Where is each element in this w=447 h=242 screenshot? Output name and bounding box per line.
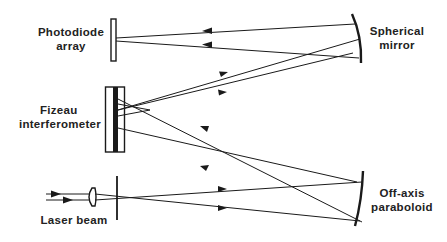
label-line: Spherical: [366, 24, 428, 38]
label-fizeau-interferometer: Fizeau interferometer: [18, 103, 102, 131]
fizeau-interferometer: [106, 87, 125, 152]
laser-lens: [89, 188, 96, 206]
spherical-mirror: [352, 14, 361, 63]
label-line: Laser beam: [39, 213, 109, 227]
label-line: array: [36, 39, 106, 53]
photodiode-array: [111, 19, 116, 61]
label-laser-beam: Laser beam: [39, 213, 109, 227]
off-axis-paraboloid: [355, 171, 363, 226]
label-line: paraboloid: [366, 200, 438, 214]
ray-arrows: [200, 28, 228, 212]
label-line: mirror: [366, 38, 428, 52]
label-line: Photodiode: [36, 25, 106, 39]
label-photodiode-array: Photodiode array: [36, 25, 106, 53]
label-off-axis-paraboloid: Off-axis paraboloid: [366, 186, 438, 214]
label-line: Fizeau: [18, 103, 102, 117]
light-rays: [95, 24, 362, 222]
label-line: interferometer: [18, 117, 102, 131]
label-line: Off-axis: [366, 186, 438, 200]
laser-input-beams: [46, 191, 92, 204]
label-spherical-mirror: Spherical mirror: [366, 24, 428, 52]
